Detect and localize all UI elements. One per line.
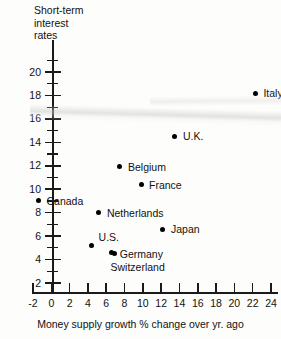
y-tick-minor bbox=[47, 224, 58, 225]
data-point-label: U.S. bbox=[99, 232, 119, 243]
x-tick bbox=[234, 283, 236, 294]
x-tick bbox=[179, 283, 181, 294]
scan-artifact-streak bbox=[30, 104, 281, 127]
x-tick bbox=[69, 283, 71, 294]
y-tick-major bbox=[45, 95, 61, 97]
data-point bbox=[96, 210, 101, 215]
data-point bbox=[139, 182, 144, 187]
x-tick bbox=[142, 283, 144, 294]
x-tick bbox=[215, 283, 217, 294]
data-point-label: Netherlands bbox=[107, 208, 164, 219]
y-tick-label: 2 bbox=[17, 278, 41, 289]
scan-artifact-streak-secondary bbox=[150, 95, 281, 106]
data-point-label: Japan bbox=[171, 224, 200, 235]
data-point-label: France bbox=[149, 180, 182, 191]
x-tick bbox=[252, 283, 254, 294]
y-tick-major bbox=[45, 235, 61, 237]
y-tick-label: 18 bbox=[17, 90, 41, 101]
x-tick bbox=[124, 283, 126, 294]
x-tick bbox=[87, 283, 89, 294]
y-tick-label: 6 bbox=[17, 231, 41, 242]
x-axis-title: Money supply growth % change over yr. ag… bbox=[0, 318, 281, 330]
data-point bbox=[89, 243, 94, 248]
y-tick-major bbox=[45, 282, 61, 284]
y-tick-label: 12 bbox=[17, 160, 41, 171]
y-tick-minor bbox=[47, 83, 58, 84]
data-point-label: Belgium bbox=[128, 162, 166, 173]
y-tick-major bbox=[45, 259, 61, 261]
y-tick-minor bbox=[47, 247, 58, 248]
y-tick-minor bbox=[47, 60, 58, 61]
data-point-label: Switzerland bbox=[110, 262, 164, 273]
x-tick bbox=[105, 283, 107, 294]
y-tick-minor bbox=[47, 107, 58, 108]
y-tick-major bbox=[45, 212, 61, 214]
x-tick bbox=[160, 283, 162, 294]
x-tick bbox=[270, 283, 272, 294]
data-point bbox=[112, 251, 117, 256]
y-tick-label: 14 bbox=[17, 137, 41, 148]
x-tick bbox=[197, 283, 199, 294]
data-point-label: Canada bbox=[46, 196, 83, 207]
y-tick-label: 10 bbox=[17, 184, 41, 195]
y-tick-minor bbox=[47, 177, 58, 178]
y-tick-label: 8 bbox=[17, 207, 41, 218]
y-tick-label: 16 bbox=[17, 113, 41, 124]
y-axis-line bbox=[52, 40, 54, 294]
x-tick bbox=[51, 283, 53, 294]
y-tick-major bbox=[45, 142, 61, 144]
scatter-chart-figure: Short-term interest rates 24681012141618… bbox=[0, 0, 281, 339]
y-tick-minor bbox=[47, 271, 58, 272]
y-tick-minor bbox=[47, 130, 58, 131]
y-axis-title: Short-term interest rates bbox=[34, 4, 84, 42]
y-tick-major bbox=[45, 118, 61, 120]
data-point-label: Germany bbox=[120, 249, 163, 260]
y-tick-label: 20 bbox=[17, 67, 41, 78]
x-tick bbox=[32, 283, 34, 294]
data-point bbox=[36, 198, 41, 203]
data-point bbox=[253, 91, 258, 96]
y-tick-minor bbox=[47, 153, 58, 154]
y-tick-major bbox=[45, 71, 61, 73]
data-point-label: Italy bbox=[263, 88, 281, 99]
y-tick-major bbox=[45, 165, 61, 167]
data-point bbox=[172, 134, 177, 139]
data-point-label: U.K. bbox=[183, 131, 203, 142]
data-point bbox=[117, 164, 122, 169]
data-point bbox=[160, 227, 165, 232]
x-tick-label: 24 bbox=[260, 298, 281, 309]
y-tick-major bbox=[45, 188, 61, 190]
y-tick-label: 4 bbox=[17, 254, 41, 265]
